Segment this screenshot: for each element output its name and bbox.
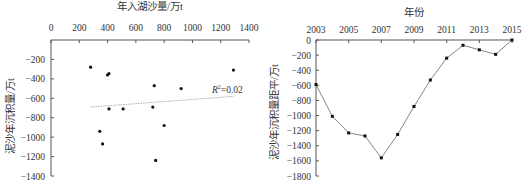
x-tick-label: 400: [100, 23, 115, 33]
data-point: [347, 131, 350, 134]
x-tick-label: 200: [72, 23, 87, 33]
x-tick-label: 2015: [503, 25, 522, 35]
y-tick-label: 0: [306, 36, 311, 46]
data-point: [98, 130, 101, 133]
data-point: [89, 66, 92, 69]
data-point: [122, 107, 125, 110]
data-point: [154, 159, 157, 162]
y-axis-title: 泥沙年沉积量距平/万t: [268, 64, 280, 160]
data-point: [153, 84, 156, 87]
y-tick-label: −1400: [287, 141, 312, 151]
y-tick-label: −1000: [21, 133, 46, 143]
data-point: [380, 156, 383, 159]
data-point: [232, 69, 235, 72]
x-tick-label: 1200: [211, 23, 230, 33]
data-point: [413, 105, 416, 108]
data-point: [396, 133, 399, 136]
chart-canvas: 年入湖沙量/万t0200400600800100012001400−200−40…: [0, 0, 525, 186]
data-point: [494, 53, 497, 56]
line-chart: 年份20032005200720092011201320150−200−400−…: [268, 6, 522, 182]
data-point: [364, 134, 367, 137]
data-point: [163, 124, 166, 127]
data-point: [429, 79, 432, 82]
y-tick-label: −1000: [287, 111, 312, 121]
x-tick-label: 2013: [470, 25, 489, 35]
y-tick-label: −1600: [287, 156, 312, 166]
x-tick-label: 2011: [437, 25, 456, 35]
scatter-chart: 年入湖沙量/万t0200400600800100012001400−200−40…: [4, 0, 259, 182]
data-point: [478, 48, 481, 51]
x-tick-label: 800: [157, 23, 172, 33]
data-point: [462, 44, 465, 47]
x-tick-label: 600: [129, 23, 144, 33]
data-point: [107, 107, 110, 110]
data-point: [445, 57, 448, 60]
data-point: [151, 105, 154, 108]
r-squared-label: R2=0.02: [211, 84, 243, 95]
y-axis-title: 泥沙年沉积量/万t: [4, 78, 16, 154]
data-line: [316, 40, 512, 158]
y-tick-label: −1400: [21, 172, 46, 182]
y-tick-label: −200: [25, 55, 45, 65]
x-tick-label: 2003: [307, 25, 326, 35]
data-point: [331, 115, 334, 118]
y-tick-label: −800: [291, 96, 311, 106]
x-axis-title: 年份: [404, 6, 425, 18]
x-tick-label: 2005: [339, 25, 358, 35]
data-point: [101, 142, 104, 145]
data-point: [180, 87, 183, 90]
x-axis-title: 年入湖沙量/万t: [117, 0, 183, 12]
y-tick-label: −1200: [21, 152, 46, 162]
x-tick-label: 1000: [183, 23, 202, 33]
y-tick-label: −1800: [287, 172, 312, 182]
y-tick-label: −800: [25, 113, 45, 123]
data-point: [315, 83, 318, 86]
trendline: [91, 96, 234, 107]
y-tick-label: −200: [291, 51, 311, 61]
data-point: [107, 72, 110, 75]
y-tick-label: −600: [25, 94, 45, 104]
y-tick-label: −400: [291, 66, 311, 76]
y-tick-label: −400: [25, 74, 45, 84]
y-tick-label: −600: [291, 81, 311, 91]
x-tick-label: 2007: [372, 25, 391, 35]
x-tick-label: 2009: [405, 25, 424, 35]
data-point: [511, 39, 514, 42]
x-tick-label: 0: [49, 23, 54, 33]
y-tick-label: −1200: [287, 126, 312, 136]
x-tick-label: 1400: [240, 23, 259, 33]
